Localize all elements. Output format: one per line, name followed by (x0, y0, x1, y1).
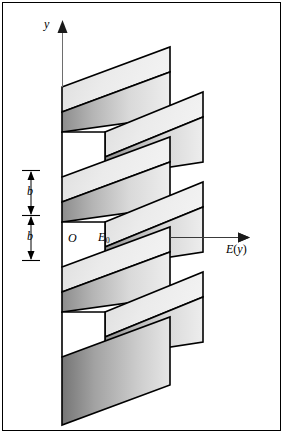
dim-arrow-2-up (28, 216, 35, 225)
E-axis-label: E(y) (226, 243, 247, 255)
staircase-band-diagram (0, 0, 283, 433)
E-axis-label-argument-close: ) (243, 242, 247, 256)
origin-label: O (68, 232, 77, 244)
dim-arrow-2-down (28, 251, 35, 260)
dim-arrow-1-down (28, 206, 35, 215)
dimension-label-b-lower: b (27, 230, 33, 242)
dim-arrow-1-up (28, 171, 35, 180)
figure-container: y O E0 E(y) b b (0, 0, 283, 433)
y-axis-arrowhead (58, 20, 68, 33)
reference-energy-subscript: 0 (105, 236, 110, 245)
reference-energy-label: E0 (98, 231, 110, 245)
dimension-label-b-upper: b (27, 185, 33, 197)
E-axis-arrowhead-overlay (238, 233, 250, 243)
y-axis-label: y (44, 18, 49, 30)
